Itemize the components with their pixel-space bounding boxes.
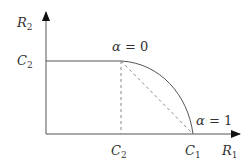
x-axis-label: R1	[222, 144, 238, 160]
x-tick-c2-label: C2	[111, 144, 127, 160]
capacity-region-diagram: R2 C2 α = 0 α = 1 C2 C1 R1	[0, 0, 249, 165]
diagram-graphics	[0, 0, 249, 165]
alpha-zero-label: α = 0	[112, 40, 148, 53]
region-curved-boundary	[121, 61, 193, 134]
y-axis-label: R2	[17, 16, 33, 32]
alpha-one-label: α = 1	[196, 114, 232, 127]
x-tick-c1-label: C1	[185, 144, 201, 160]
dashed-time-sharing-line	[121, 61, 193, 134]
y-tick-c2-label: C2	[17, 54, 33, 70]
